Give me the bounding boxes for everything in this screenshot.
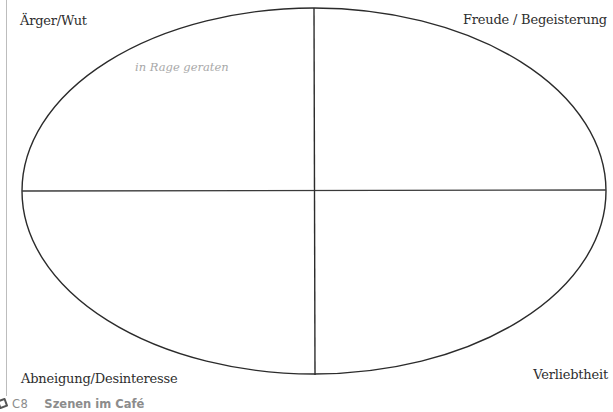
handwritten-annotation: in Rage geraten xyxy=(135,60,229,74)
emotion-ellipse-diagram xyxy=(0,0,613,412)
footer-title: Szenen im Café xyxy=(44,397,144,411)
quadrant-label-anger: Ärger/Wut xyxy=(20,13,87,28)
quadrant-label-infatuation: Verliebtheit xyxy=(533,367,608,382)
quadrant-label-aversion: Abneigung/Desinteresse xyxy=(21,371,177,386)
page-footer: C8 Szenen im Café xyxy=(0,395,144,412)
footer-code: C8 xyxy=(12,397,28,411)
quadrant-label-joy: Freude / Begeisterung xyxy=(463,12,607,27)
vertical-axis xyxy=(314,8,315,375)
worksheet-page: Ärger/Wut Freude / Begeisterung Abneigun… xyxy=(0,0,613,412)
pencil-note-icon xyxy=(0,398,8,410)
